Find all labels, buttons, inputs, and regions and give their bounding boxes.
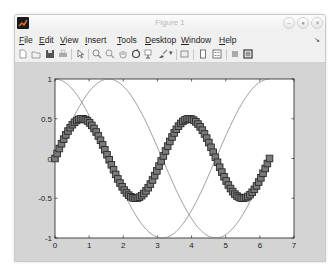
undock-arrow-icon[interactable]: ↘ xyxy=(314,36,320,44)
menu-tools[interactable]: Tools xyxy=(117,35,137,45)
maximize-button[interactable]: ● xyxy=(297,17,309,29)
menu-edit[interactable]: Edit xyxy=(39,35,54,45)
open-file-icon[interactable] xyxy=(31,49,41,59)
window-title: Figure 1 xyxy=(15,18,325,27)
figure-canvas[interactable]: 01234567-1-0.500.51 xyxy=(15,63,325,261)
brush-icon[interactable] xyxy=(158,49,168,59)
axes[interactable]: 01234567-1-0.500.51 xyxy=(15,63,325,261)
y-tick-label: -0.5 xyxy=(38,194,52,203)
zoom-out-icon[interactable] xyxy=(105,49,115,59)
new-figure-icon[interactable] xyxy=(18,49,28,59)
menu-file[interactable]: File xyxy=(19,35,33,45)
legend-icon[interactable] xyxy=(212,49,222,59)
zoom-in-icon[interactable] xyxy=(92,49,102,59)
link-plot-icon[interactable] xyxy=(180,49,190,59)
close-button[interactable]: ✕ xyxy=(311,17,323,29)
toolbar-separator xyxy=(226,49,227,60)
toolbar-separator xyxy=(71,49,72,60)
menu-window[interactable]: Window xyxy=(181,35,211,45)
y-tick-label: 1 xyxy=(48,75,53,84)
y-tick-label: 0.5 xyxy=(41,115,53,124)
x-tick-label: 6 xyxy=(258,241,263,250)
toolbar-separator xyxy=(176,49,177,60)
x-tick-label: 2 xyxy=(121,241,126,250)
x-tick-label: 1 xyxy=(87,241,92,250)
menu-bar: File Edit View Insert Tools Desktop Wind… xyxy=(15,33,325,47)
menu-insert[interactable]: Insert xyxy=(85,35,106,45)
colorbar-icon[interactable] xyxy=(198,49,208,59)
square-marker xyxy=(266,155,273,162)
axes-box xyxy=(55,79,294,238)
show-plot-tools-icon[interactable] xyxy=(243,49,253,59)
x-tick-label: 7 xyxy=(292,241,297,250)
menu-help[interactable]: Help xyxy=(219,35,236,45)
rotate-3d-icon[interactable] xyxy=(131,49,141,59)
x-tick-label: 0 xyxy=(53,241,58,250)
toolbar-separator xyxy=(88,49,89,60)
pan-hand-icon[interactable] xyxy=(118,49,128,59)
data-cursor-icon[interactable] xyxy=(144,49,154,59)
x-tick-label: 4 xyxy=(189,241,194,250)
print-icon[interactable] xyxy=(58,49,68,59)
toolbar-separator xyxy=(193,49,194,60)
figure-toolbar: ▾ xyxy=(15,47,325,63)
edit-plot-arrow-icon[interactable] xyxy=(75,49,85,59)
menu-desktop[interactable]: Desktop xyxy=(145,35,176,45)
hide-plot-tools-icon[interactable] xyxy=(230,49,240,59)
menu-view[interactable]: View xyxy=(60,35,78,45)
title-bar[interactable]: Figure 1 – ● ✕ xyxy=(15,15,325,33)
brush-dropdown-icon[interactable]: ▾ xyxy=(169,49,173,57)
x-tick-label: 3 xyxy=(155,241,160,250)
figure-window: Figure 1 – ● ✕ File Edit View Insert Too… xyxy=(14,14,326,262)
x-tick-label: 5 xyxy=(223,241,228,250)
minimize-button[interactable]: – xyxy=(283,17,295,29)
y-tick-label: -1 xyxy=(45,234,53,243)
save-icon[interactable] xyxy=(45,49,55,59)
